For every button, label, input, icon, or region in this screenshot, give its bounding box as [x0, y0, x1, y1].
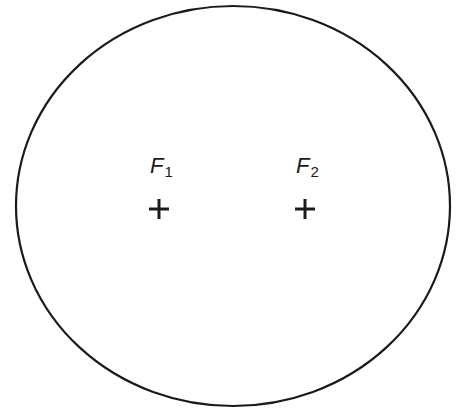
focus-2-cross-icon: [295, 199, 315, 219]
focus-2-name: F: [296, 153, 309, 178]
focus-1-name: F: [150, 153, 163, 178]
ellipse-outline: [16, 6, 450, 406]
focus-2-subscript: 2: [310, 163, 318, 180]
focus-2-label: F2: [296, 155, 319, 179]
ellipse-diagram: F1 F2: [0, 0, 457, 416]
diagram-svg: [0, 0, 457, 416]
focus-1-subscript: 1: [164, 163, 172, 180]
focus-1-label: F1: [150, 155, 173, 179]
focus-1-cross-icon: [149, 199, 169, 219]
